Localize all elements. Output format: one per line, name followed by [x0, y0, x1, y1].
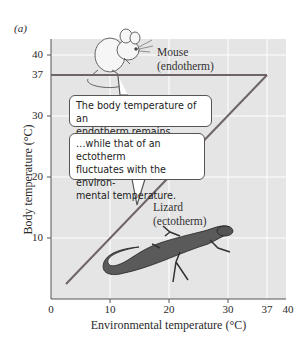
x-axis-label: Environmental temperature (°C)	[51, 318, 286, 333]
callout-2-line-2: fluctuates with the environ-	[76, 163, 198, 189]
callout-2-line-1: …while that of an ectotherm	[76, 137, 198, 163]
lizard-label-line-2: (ectotherm)	[153, 214, 207, 228]
callout-ectotherm: …while that of an ectotherm fluctuates w…	[69, 133, 205, 180]
x-tick-30: 30	[218, 303, 238, 315]
lizard-label: Lizard (ectotherm)	[153, 200, 207, 228]
x-tick-37: 37	[257, 303, 277, 315]
y-tick-40: 40	[13, 48, 43, 60]
lizard-illustration	[103, 226, 233, 282]
lizard-label-line-1: Lizard	[153, 200, 207, 214]
mouse-illustration	[88, 29, 153, 88]
mouse-label-line-1: Mouse	[157, 45, 214, 59]
callout-1-tail	[118, 76, 128, 95]
y-axis-label: Body temperature (°C)	[21, 110, 36, 250]
callout-1-line-1: The body temperature of an	[76, 99, 205, 125]
x-tick-0: 0	[41, 303, 61, 315]
mouse-label: Mouse (endotherm)	[157, 45, 214, 73]
callout-endotherm: The body temperature of an endotherm rem…	[69, 95, 212, 127]
mouse-label-line-2: (endotherm)	[157, 59, 214, 73]
y-tick-37: 37	[13, 68, 43, 80]
x-tick-10: 10	[100, 303, 120, 315]
x-tick-20: 20	[159, 303, 179, 315]
x-tick-40: 40	[278, 303, 298, 315]
